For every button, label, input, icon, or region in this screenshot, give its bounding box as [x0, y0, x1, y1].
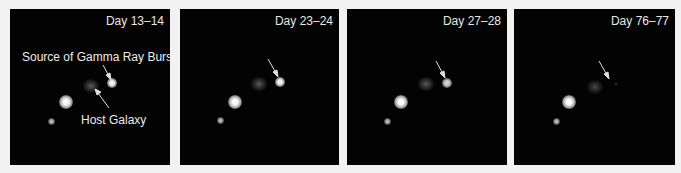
- image-panel-day-13-14: Day 13–14 Source of Gamma Ray Burst Host…: [10, 9, 170, 165]
- host-galaxy: [83, 79, 99, 93]
- gamma-ray-burst-source: [442, 78, 452, 88]
- gamma-ray-burst-source: [107, 78, 117, 88]
- arrow-to-grb-icon: [436, 61, 445, 78]
- gamma-ray-burst-source-faded: [614, 82, 618, 86]
- annotation-grb-source: Source of Gamma Ray Burst: [22, 50, 170, 64]
- image-panel-day-76-77: Day 76–77: [514, 9, 675, 165]
- arrow-to-grb-icon: [599, 61, 609, 79]
- host-galaxy: [587, 80, 603, 94]
- day-label: Day 13–14: [106, 14, 164, 28]
- gamma-ray-burst-source: [275, 77, 285, 87]
- foreground-star-bright: [59, 95, 73, 109]
- foreground-star-faint: [384, 118, 391, 125]
- day-label: Day 23–24: [275, 14, 333, 28]
- foreground-star-bright: [394, 95, 408, 109]
- image-panel-day-27-28: Day 27–28: [347, 9, 507, 165]
- host-galaxy: [418, 77, 434, 91]
- arrow-to-galaxy-icon: [95, 89, 109, 108]
- arrow-to-grb-icon: [268, 59, 278, 77]
- foreground-star-faint: [553, 118, 560, 125]
- foreground-star-faint: [48, 118, 55, 125]
- day-label: Day 27–28: [443, 14, 501, 28]
- foreground-star-bright: [228, 95, 242, 109]
- image-panel-day-23-24: Day 23–24: [180, 9, 339, 165]
- foreground-star-bright: [562, 95, 576, 109]
- day-label: Day 76–77: [611, 14, 669, 28]
- host-galaxy: [251, 77, 267, 91]
- annotation-host-galaxy: Host Galaxy: [81, 113, 146, 127]
- foreground-star-faint: [217, 117, 224, 124]
